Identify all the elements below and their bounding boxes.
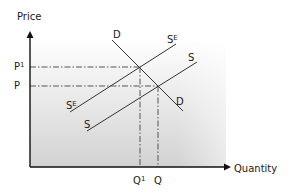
- q-label: Q: [154, 175, 162, 186]
- y-axis-label: Price: [17, 11, 41, 22]
- demand-label-bottom: D: [176, 96, 184, 107]
- demand-label-top: D: [113, 29, 121, 40]
- y-axis-arrow-icon: [27, 31, 34, 38]
- p1-label: P1: [14, 61, 25, 72]
- q1-label: Q1: [133, 175, 145, 186]
- x-axis-label: Quantity: [234, 163, 277, 174]
- supply-label-bottom: S: [84, 119, 90, 130]
- supply-demand-diagram: Price Quantity P1 P Q1 Q D D S S SE SE: [0, 0, 293, 195]
- x-axis-arrow-icon: [224, 164, 231, 171]
- supply-label-top: S: [188, 52, 194, 63]
- p-label: P: [14, 80, 20, 91]
